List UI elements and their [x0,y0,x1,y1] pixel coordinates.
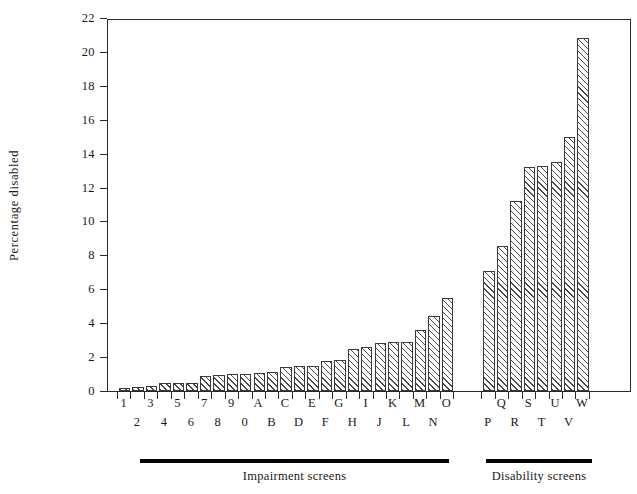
x-tick-label-V: V [558,415,580,430]
bar-9 [227,374,238,391]
bar-G [334,360,345,391]
bar-R [510,201,521,391]
x-tick-label-M: M [409,396,431,411]
x-tick-label-8: 8 [207,415,229,430]
x-tick-boundary-g2-0 [481,392,482,399]
x-tick-label-D: D [288,415,310,430]
x-tick-label-S: S [517,396,539,411]
y-tick-label: 0 [88,383,95,399]
bar-E [307,366,318,391]
x-tick-label-J: J [368,415,390,430]
bar-Q [497,246,508,391]
bar-P [483,271,494,391]
x-tick-label-U: U [544,396,566,411]
y-tick-label: 20 [82,44,95,60]
y-tick-label: 2 [88,349,95,365]
bar-F [321,361,332,391]
y-tick-mark [100,323,107,324]
y-tick-mark [100,120,107,121]
x-tick-label-H: H [341,415,363,430]
x-tick-label-7: 7 [193,396,215,411]
bar-H [348,349,359,391]
y-tick-label: 8 [88,247,95,263]
y-tick-label: 6 [88,281,95,297]
bar-D [294,366,305,391]
bar-M [415,330,426,391]
bar-6 [186,383,197,391]
y-tick-label: 16 [82,112,95,128]
bar-C [280,367,291,391]
bar-W [577,38,588,392]
y-tick-mark [100,52,107,53]
y-tick-label: 22 [82,10,95,26]
x-tick-label-W: W [571,396,593,411]
y-tick-label: 4 [88,315,95,331]
x-tick-label-K: K [382,396,404,411]
y-tick-mark [100,86,107,87]
x-tick-label-6: 6 [180,415,202,430]
bar-1 [119,388,130,391]
y-tick-label: 18 [82,78,95,94]
bar-A [254,373,265,391]
bar-I [361,347,372,391]
bar-7 [200,376,211,391]
chart-figure: Percentage disabled 0246810121416182022 … [0,0,637,494]
x-tick-label-N: N [422,415,444,430]
disability-screens-label: Disability screens [486,469,592,484]
disability-screens-rule [486,459,592,463]
y-tick-mark [100,18,107,19]
x-tick-label-9: 9 [220,396,242,411]
y-tick-mark [100,391,107,392]
bar-O [442,298,453,391]
x-tick-label-0: 0 [234,415,256,430]
x-tick-label-R: R [504,415,526,430]
bar-B [267,372,278,391]
x-tick-label-3: 3 [140,396,162,411]
y-tick-label: 12 [82,180,95,196]
x-tick-label-I: I [355,396,377,411]
bar-L [401,342,412,391]
y-tick-mark [100,255,107,256]
x-tick-label-G: G [328,396,350,411]
bar-J [375,343,386,391]
bar-layer [108,20,630,391]
bar-3 [146,386,157,391]
bar-S [524,167,535,391]
y-tick-mark [100,154,107,155]
x-tick-label-C: C [274,396,296,411]
x-tick-label-Q: Q [490,396,512,411]
y-tick-mark [100,221,107,222]
bar-8 [213,375,224,391]
x-tick-label-T: T [531,415,553,430]
x-tick-label-2: 2 [126,415,148,430]
bar-T [537,166,548,391]
y-tick-label: 10 [82,213,95,229]
bar-0 [240,374,251,391]
y-tick-mark [100,289,107,290]
plot-area [107,19,631,392]
x-tick-label-P: P [477,415,499,430]
bar-K [388,342,399,391]
x-tick-label-4: 4 [153,415,175,430]
x-tick-label-A: A [247,396,269,411]
bar-5 [173,383,184,391]
bar-N [428,316,439,391]
bar-4 [159,383,170,391]
x-tick-label-5: 5 [167,396,189,411]
bar-V [564,137,575,391]
y-tick-mark [100,357,107,358]
x-tick-label-B: B [261,415,283,430]
x-tick-label-O: O [436,396,458,411]
impairment-screens-label: Impairment screens [140,469,449,484]
y-axis-title: Percentage disabled [7,106,22,306]
x-tick-label-L: L [395,415,417,430]
y-tick-label: 14 [82,146,95,162]
y-tick-mark [100,188,107,189]
bar-2 [132,387,143,391]
x-tick-label-E: E [301,396,323,411]
impairment-screens-rule [140,459,449,463]
bar-U [551,162,562,391]
x-tick-label-F: F [314,415,336,430]
x-tick-label-1: 1 [113,396,135,411]
